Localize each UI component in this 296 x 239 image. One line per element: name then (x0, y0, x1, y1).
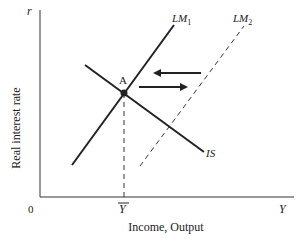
is-lm-diagram: r Real interest rate A LM1 LM2 IS 0 Y Y … (0, 0, 296, 239)
is-curve (85, 65, 204, 152)
x-axis-label: Income, Output (128, 220, 204, 234)
lm2-label: LM2 (232, 12, 252, 27)
origin-label: 0 (28, 203, 34, 215)
equilibrium-point-a (121, 90, 128, 97)
lm2-subscript: 2 (248, 18, 252, 27)
equilibrium-point-label: A (119, 74, 127, 86)
y-axis-symbol: r (27, 4, 32, 18)
lm2-curve (140, 26, 244, 166)
equilibrium-output-label: Y (119, 202, 127, 216)
lm1-label: LM1 (171, 12, 191, 27)
x-axis-symbol: Y (279, 202, 287, 216)
lm1-name: LM (171, 12, 188, 24)
lm2-name: LM (232, 12, 249, 24)
y-axis-label: Real interest rate (9, 87, 23, 168)
lm1-subscript: 1 (187, 18, 191, 27)
is-label: IS (205, 147, 216, 159)
